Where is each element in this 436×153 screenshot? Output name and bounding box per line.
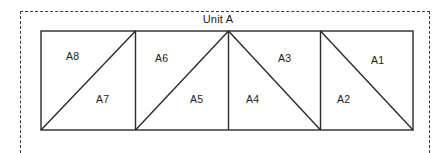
outer-rectangle <box>41 31 413 130</box>
diagonal-panel-2 <box>136 31 229 130</box>
diagonal-panel-3 <box>229 31 321 130</box>
member-label-a8: A8 <box>66 50 79 62</box>
member-label-a4: A4 <box>246 93 259 105</box>
diagram-canvas: Unit A A8 A7 A6 A5 A3 A4 A1 A2 <box>0 0 436 153</box>
member-label-a5: A5 <box>190 93 203 105</box>
member-label-a1: A1 <box>371 54 384 66</box>
member-label-a6: A6 <box>155 52 168 64</box>
diagonal-panel-4 <box>321 31 414 130</box>
truss-diagram <box>0 0 436 153</box>
member-label-a3: A3 <box>278 52 291 64</box>
member-label-a7: A7 <box>96 93 109 105</box>
diagonal-panel-1 <box>41 31 136 130</box>
member-label-a2: A2 <box>337 93 350 105</box>
